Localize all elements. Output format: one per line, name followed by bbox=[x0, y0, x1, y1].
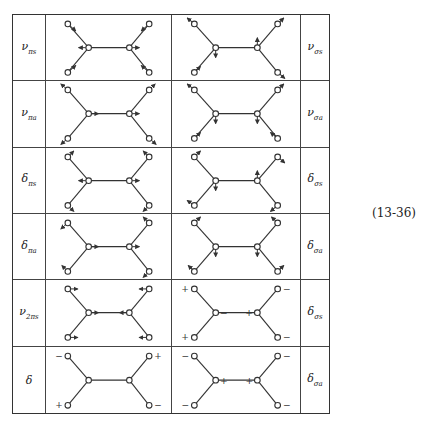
mode-label: ν2πs bbox=[13, 305, 45, 320]
molecule-diagram: −−−−++ bbox=[172, 347, 300, 413]
atom-circle bbox=[275, 87, 281, 93]
bond-line bbox=[194, 356, 215, 380]
bond-line bbox=[194, 24, 215, 48]
mode-label: δσa bbox=[301, 372, 329, 387]
table-row: δπsδσs bbox=[13, 148, 329, 214]
molecule-diagram: −++− bbox=[46, 347, 171, 413]
molecule-diagram bbox=[172, 15, 300, 80]
bond-line bbox=[129, 24, 149, 48]
mode-label-subscript: πa bbox=[28, 246, 37, 254]
bond-line bbox=[257, 90, 277, 114]
atom-circle bbox=[213, 310, 219, 316]
displacement-sign: − bbox=[220, 308, 228, 318]
mode-label: νσs bbox=[301, 40, 329, 55]
displacement-arrow-icon bbox=[143, 207, 147, 211]
atom-circle bbox=[275, 154, 281, 160]
displacement-sign: + bbox=[245, 308, 253, 318]
bond-line bbox=[129, 90, 149, 114]
atom-circle bbox=[192, 402, 198, 408]
atom-circle bbox=[86, 310, 92, 316]
atom-circle bbox=[275, 269, 281, 275]
molecule-diagram bbox=[46, 280, 171, 345]
atom-circle bbox=[254, 45, 260, 51]
atom-circle bbox=[127, 111, 133, 117]
bond-line bbox=[68, 247, 89, 272]
right-label-cell: δσa bbox=[301, 214, 329, 279]
displacement-arrow-icon bbox=[143, 217, 147, 221]
atom-circle bbox=[275, 402, 281, 408]
bond-line bbox=[257, 157, 277, 181]
displacement-sign: − bbox=[181, 351, 189, 361]
right-label-cell: δσs bbox=[301, 280, 329, 345]
atom-circle bbox=[275, 202, 281, 208]
table-row: νπaνσa bbox=[13, 81, 329, 147]
atom-circle bbox=[127, 377, 133, 383]
atom-circle bbox=[65, 286, 71, 292]
atom-circle bbox=[192, 220, 198, 226]
atom-circle bbox=[146, 220, 152, 226]
atom-circle bbox=[86, 244, 92, 250]
atom-circle bbox=[146, 21, 152, 27]
atom-circle bbox=[86, 45, 92, 51]
atom-circle bbox=[254, 111, 260, 117]
bond-line bbox=[68, 24, 89, 48]
right-label-cell: δσa bbox=[301, 347, 329, 413]
displacement-sign: + bbox=[181, 284, 189, 294]
left-label-cell: ν2πs bbox=[13, 280, 46, 345]
atom-circle bbox=[146, 202, 152, 208]
table-row: δπaδσa bbox=[13, 214, 329, 280]
bond-line bbox=[257, 114, 277, 139]
mode-label-subscript: 2πs bbox=[26, 313, 39, 321]
atom-circle bbox=[146, 87, 152, 93]
displacement-arrow-icon bbox=[280, 265, 284, 269]
left-label-cell: δπa bbox=[13, 214, 46, 279]
left-diagram-cell bbox=[46, 15, 172, 80]
atom-circle bbox=[275, 220, 281, 226]
right-label-cell: δσs bbox=[301, 148, 329, 213]
table-row: ν2πs+−+−−+δσs bbox=[13, 280, 329, 346]
displacement-sign: − bbox=[154, 400, 161, 410]
mode-label: νπa bbox=[13, 106, 45, 121]
bond-line bbox=[129, 157, 149, 181]
atom-circle bbox=[65, 21, 71, 27]
bond-line bbox=[257, 223, 277, 247]
mode-label-subscript: σs bbox=[314, 313, 322, 321]
right-diagram-cell: +−+−−+ bbox=[172, 280, 301, 345]
mode-label-subscript: πa bbox=[28, 114, 37, 122]
bond-line bbox=[68, 313, 89, 338]
displacement-arrow-icon bbox=[187, 18, 192, 22]
displacement-arrow-icon bbox=[271, 207, 276, 211]
displacement-arrow-icon bbox=[61, 141, 66, 145]
bond-line bbox=[257, 180, 277, 205]
atom-circle bbox=[146, 269, 152, 275]
displacement-sign: + bbox=[220, 376, 228, 386]
displacement-sign: − bbox=[55, 351, 62, 361]
atom-circle bbox=[146, 335, 152, 341]
equation-number: (13-36) bbox=[372, 206, 416, 220]
bond-line bbox=[129, 114, 149, 139]
displacement-arrow-icon bbox=[151, 84, 155, 88]
displacement-arrow-icon bbox=[272, 217, 276, 221]
right-diagram-cell: −−−−++ bbox=[172, 347, 301, 413]
atom-circle bbox=[192, 286, 198, 292]
displacement-arrow-icon bbox=[196, 151, 200, 155]
bond-line bbox=[129, 380, 149, 405]
atom-circle bbox=[192, 154, 198, 160]
displacement-sign: − bbox=[283, 284, 291, 294]
atom-circle bbox=[254, 377, 260, 383]
atom-circle bbox=[146, 136, 152, 142]
bond-line bbox=[257, 356, 277, 380]
bond-line bbox=[68, 90, 89, 114]
atom-circle bbox=[275, 335, 281, 341]
mode-label: δσa bbox=[301, 239, 329, 254]
bond-line bbox=[194, 90, 215, 114]
bond-line bbox=[68, 223, 89, 247]
displacement-arrow-icon bbox=[143, 273, 147, 277]
displacement-arrow-icon bbox=[280, 84, 284, 88]
displacement-arrow-icon bbox=[62, 265, 66, 269]
mode-label-subscript: πs bbox=[28, 180, 36, 188]
atom-circle bbox=[275, 136, 281, 142]
atom-circle bbox=[65, 154, 71, 160]
atom-circle bbox=[192, 335, 198, 341]
bond-line bbox=[129, 223, 149, 247]
